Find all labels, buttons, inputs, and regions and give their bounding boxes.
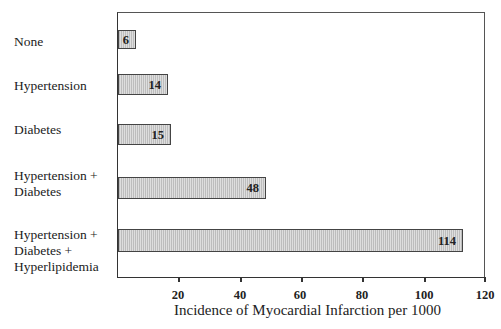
x-tick-100 bbox=[424, 277, 426, 282]
bar-hypertension: 14 bbox=[118, 74, 168, 95]
bar-hypertension-diabetes-hyperlipidemia: 114 bbox=[118, 229, 463, 252]
bar-value-hypertension-diabetes: 48 bbox=[247, 181, 260, 196]
category-label-hypertension: Hypertension bbox=[14, 78, 87, 94]
bar-hypertension-diabetes: 48 bbox=[118, 177, 266, 199]
x-tick-label-80: 80 bbox=[356, 288, 369, 303]
bar-none: 6 bbox=[118, 30, 136, 49]
x-tick-label-60: 60 bbox=[294, 288, 307, 303]
category-label-hypertension-diabetes-hyperlipidemia: Hypertension + Diabetes + Hyperlipidemia bbox=[14, 227, 99, 275]
category-label-hypertension-diabetes: Hypertension + Diabetes bbox=[14, 168, 98, 200]
x-axis-label: Incidence of Myocardial Infarction per 1… bbox=[174, 302, 441, 319]
plot-area: 6 14 15 48 114 bbox=[117, 12, 485, 278]
bar-value-hypertension: 14 bbox=[149, 77, 162, 92]
bar-value-none: 6 bbox=[123, 32, 129, 47]
x-tick-40 bbox=[240, 277, 242, 282]
x-tick-60 bbox=[301, 277, 303, 282]
x-tick-120 bbox=[484, 277, 486, 282]
category-line: Diabetes + bbox=[14, 243, 99, 259]
category-line: None bbox=[14, 34, 43, 50]
category-line: Hypertension + bbox=[14, 227, 99, 243]
x-tick-label-20: 20 bbox=[172, 288, 185, 303]
bar-value-diabetes: 15 bbox=[152, 127, 165, 142]
category-label-none: None bbox=[14, 34, 43, 50]
category-line: Hyperlipidemia bbox=[14, 259, 99, 275]
x-tick-label-100: 100 bbox=[415, 288, 434, 303]
bar-diabetes: 15 bbox=[118, 124, 171, 145]
bar-value-hypertension-diabetes-hyperlipidemia: 114 bbox=[438, 233, 456, 248]
x-tick-label-40: 40 bbox=[234, 288, 247, 303]
category-line: Hypertension + bbox=[14, 168, 98, 184]
x-tick-80 bbox=[362, 277, 364, 282]
x-tick-label-120: 120 bbox=[476, 288, 495, 303]
x-tick-20 bbox=[178, 277, 180, 282]
category-line: Hypertension bbox=[14, 78, 87, 94]
category-line: Diabetes bbox=[14, 122, 61, 138]
category-label-diabetes: Diabetes bbox=[14, 122, 61, 138]
category-line: Diabetes bbox=[14, 184, 98, 200]
